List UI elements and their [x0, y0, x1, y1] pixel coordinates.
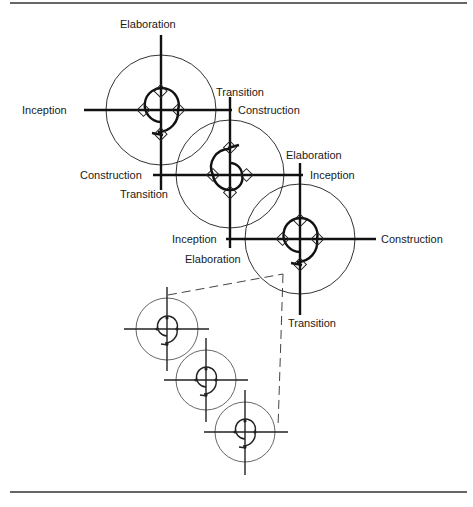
small-cycle-1 — [124, 287, 209, 371]
label-construction: Construction — [80, 169, 142, 181]
label-construction: Construction — [238, 104, 300, 116]
label-elaboration: Elaboration — [120, 18, 176, 30]
zoom-connector — [168, 274, 283, 428]
label-construction: Construction — [381, 233, 443, 245]
label-transition: Transition — [288, 317, 336, 329]
label-elaboration: Elaboration — [286, 149, 342, 161]
spiral-path — [211, 149, 242, 190]
small-cycle-3 — [204, 390, 288, 475]
large-cycle-1: Elaboration Inception Construction Trans… — [22, 18, 300, 190]
small-cycle-2 — [164, 338, 248, 422]
label-elaboration: Elaboration — [185, 253, 241, 265]
iteration-cycles-diagram: Elaboration Inception Construction Trans… — [0, 0, 473, 507]
large-cycle-3: Inception Elaboration Construction Trans… — [172, 163, 443, 329]
label-transition: Transition — [216, 86, 264, 98]
label-inception: Inception — [310, 169, 355, 181]
label-inception: Inception — [172, 233, 217, 245]
label-inception: Inception — [22, 104, 67, 116]
label-transition: Transition — [120, 188, 168, 200]
